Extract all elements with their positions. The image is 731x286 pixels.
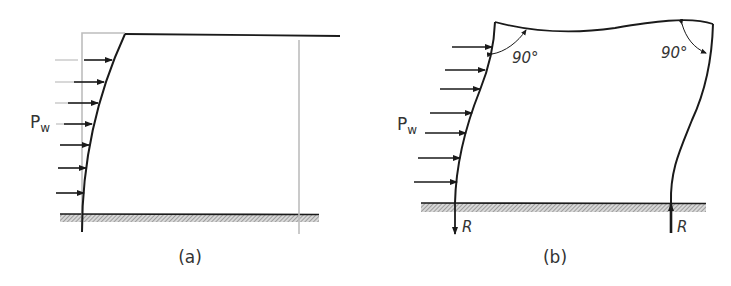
deformed-left-column-a	[82, 34, 125, 232]
load-label-main: P	[397, 114, 407, 134]
load-label-sub: w	[40, 121, 50, 135]
wind-arrows-b	[414, 47, 492, 182]
top-beam-a	[125, 34, 340, 36]
ground-line-a	[60, 214, 319, 215]
caption-b: (b)	[543, 247, 567, 267]
reaction-label-left: R	[462, 218, 472, 236]
angle-label-left: 90°	[512, 49, 539, 67]
panel-a: Pw (a)	[30, 33, 340, 267]
panel-b: 90° 90° Pw R R (b)	[397, 20, 713, 267]
angle-label-right: 90°	[661, 44, 688, 62]
caption-a: (a)	[178, 247, 202, 267]
load-label-b: Pw	[397, 114, 417, 137]
wind-arrows-a	[55, 60, 112, 193]
load-label-sub: w	[407, 123, 417, 137]
reaction-label-right: R	[677, 218, 687, 236]
structural-diagram: Pw (a) 90° 90° Pw	[0, 0, 731, 286]
ground-hatch-b	[421, 203, 706, 212]
load-label-main: P	[30, 112, 40, 132]
top-beam-b	[495, 20, 713, 31]
ground-line-b	[421, 203, 706, 204]
undeformed-frame-a	[82, 33, 125, 232]
load-label-a: Pw	[30, 112, 50, 135]
